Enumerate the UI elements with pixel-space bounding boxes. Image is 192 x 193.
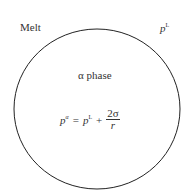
alpha-phase-label: α phase <box>78 69 112 81</box>
equation-plus: + <box>96 114 102 126</box>
equation-fraction: 2σ r <box>106 108 119 131</box>
equation-rhs-pressure: pL <box>83 114 92 126</box>
laplace-equation: pα = pL + 2σ r <box>60 108 120 131</box>
melt-label: Melt <box>20 21 41 33</box>
equation-lhs: pα <box>60 114 69 126</box>
pressure-superscript: L <box>166 22 170 28</box>
equation-equals: = <box>73 114 79 126</box>
fraction-denominator: r <box>111 120 115 131</box>
outside-pressure-label: pL <box>160 22 169 34</box>
